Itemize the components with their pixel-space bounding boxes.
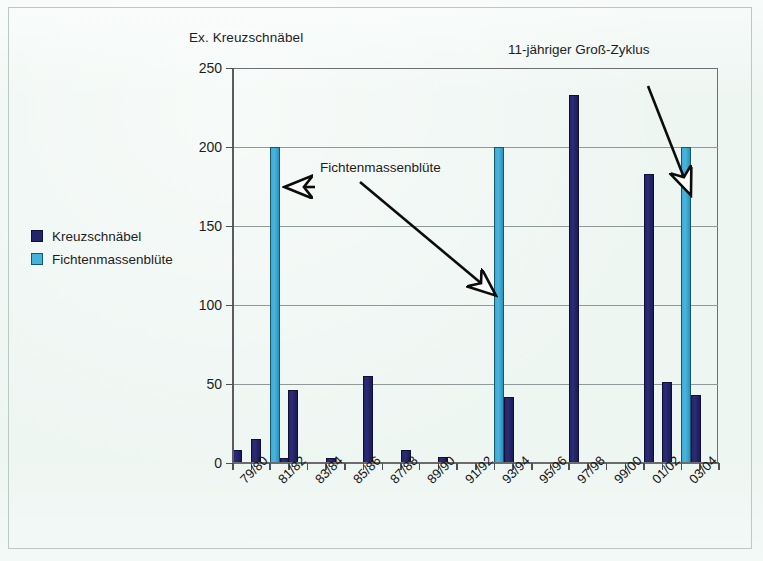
bar-kreuzschnaebel — [363, 376, 373, 463]
bar-fichtenmassenbluete — [681, 147, 691, 463]
y-axis-tick-label: 200 — [199, 139, 222, 155]
bar-kreuzschnaebel — [691, 395, 701, 463]
legend-item-kreuzschnaebel: Kreuzschnäbel — [31, 226, 173, 246]
figure-page: Ex. Kreuzschnäbel Kreuzschnäbel Fichtenm… — [0, 0, 763, 561]
y-axis-title: Ex. Kreuzschnäbel — [189, 30, 303, 45]
bar-kreuzschnaebel — [644, 174, 654, 463]
y-axis-tick-label: 250 — [199, 60, 222, 76]
legend-item-fichtenmassenbluete: Fichtenmassenblüte — [31, 249, 173, 269]
legend-swatch-icon-fichtenmassenbluete — [31, 253, 43, 265]
annotation-gross-zyklus: 11-jähriger Groß-Zyklus — [508, 42, 650, 57]
y-axis-tick-label: 150 — [199, 218, 222, 234]
y-axis-tick-label: 50 — [206, 376, 222, 392]
bar-fichtenmassenbluete — [270, 147, 280, 463]
x-axis-tick-labels: 79/8081/8283/8485/8687/8889/9091/9293/94… — [232, 476, 718, 561]
legend-swatch-icon-kreuzschnaebel — [31, 230, 43, 242]
bar-kreuzschnaebel — [569, 95, 579, 463]
bar-kreuzschnaebel — [662, 382, 672, 463]
y-axis-tick — [226, 305, 233, 307]
legend-label-fichtenmassenbluete: Fichtenmassenblüte — [52, 252, 173, 267]
y-axis-tick-label: 0 — [214, 455, 222, 471]
plot-area: 050100150200250 79/8081/8283/8485/8687/8… — [232, 68, 718, 463]
x-axis-tick — [232, 463, 234, 470]
y-axis-tick — [226, 68, 233, 70]
chart-legend: Kreuzschnäbel Fichtenmassenblüte — [31, 226, 173, 272]
y-axis-tick — [226, 147, 233, 149]
bar-kreuzschnaebel — [504, 397, 514, 463]
legend-label-kreuzschnaebel: Kreuzschnäbel — [52, 229, 141, 244]
y-axis-tick-label: 100 — [199, 297, 222, 313]
bar-group — [232, 68, 718, 463]
bar-fichtenmassenbluete — [494, 147, 504, 463]
y-axis-tick — [226, 226, 233, 228]
y-axis-line — [232, 68, 234, 464]
y-axis-tick — [226, 384, 233, 386]
